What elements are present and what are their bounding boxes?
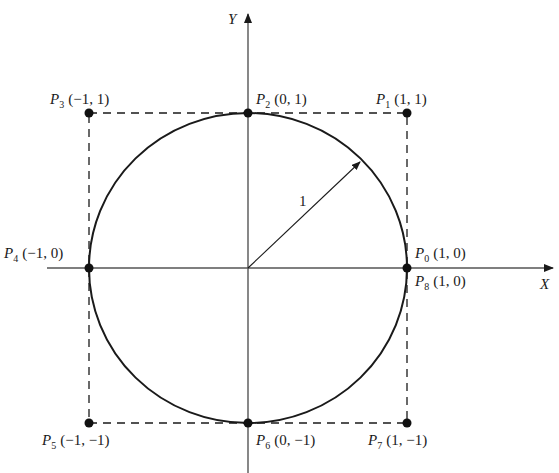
label-p6: P6(0, −1) (255, 432, 315, 451)
unit-circle-diagram: Y X 1 P3(−1, 1) P2(0, 1) P1(1, 1) P4(−1,… (0, 0, 559, 473)
point-p7 (403, 419, 412, 428)
label-p7: P7(1, −1) (367, 432, 427, 451)
label-p0: P0(1, 0) (414, 245, 466, 264)
radius-label: 1 (299, 193, 307, 209)
point-p0 (403, 264, 412, 273)
y-axis-label: Y (228, 11, 238, 27)
label-p8: P8(1, 0) (414, 273, 466, 292)
point-p4 (85, 264, 94, 273)
point-p5 (85, 419, 94, 428)
label-p1: P1(1, 1) (375, 91, 427, 110)
point-p1 (403, 109, 412, 118)
point-p2 (244, 109, 253, 118)
label-p3: P3(−1, 1) (49, 91, 109, 110)
radius-arrow (248, 162, 360, 268)
label-p2: P2(0, 1) (255, 91, 307, 110)
label-p4: P4(−1, 0) (3, 245, 63, 264)
label-p5: P5(−1, −1) (41, 432, 110, 451)
point-p3 (85, 109, 94, 118)
x-axis-label: X (539, 276, 550, 292)
point-p6 (244, 419, 253, 428)
